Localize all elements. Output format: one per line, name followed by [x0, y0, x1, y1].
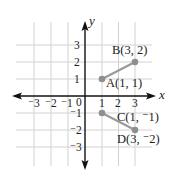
point-label-a: A(1, 1) [106, 76, 142, 90]
y-tick-label: 2 [74, 56, 80, 68]
coordinate-plane: x y ⁻3 ⁻2 ⁻1 0 1 2 3 3 2 1 ⁻1 ⁻2 ⁻3 A(1,… [0, 0, 172, 179]
y-tick-label: ⁻1 [70, 107, 82, 119]
point-a [99, 76, 106, 83]
point-c [99, 110, 106, 117]
point-b [132, 59, 139, 66]
y-axis-label: y [87, 13, 95, 28]
x-tick-label: 2 [115, 97, 121, 109]
point-label-b: B(3, 2) [112, 43, 147, 57]
y-tick-label: 1 [74, 73, 80, 85]
x-tick-label: 1 [99, 97, 105, 109]
x-tick-label: ⁻3 [28, 97, 40, 109]
point-label-d: D(3, ⁻2) [117, 132, 160, 146]
y-tick-label: 3 [74, 39, 80, 51]
x-axis-label: x [158, 87, 165, 102]
x-tick-label: 3 [132, 97, 138, 109]
y-tick-label: ⁻2 [70, 124, 82, 136]
x-tick-labels: ⁻3 ⁻2 ⁻1 0 1 2 3 [28, 96, 138, 109]
x-tick-label: ⁻2 [45, 97, 57, 109]
point-label-c: C(1, ⁻1) [117, 110, 159, 124]
y-tick-label: ⁻3 [70, 141, 82, 153]
